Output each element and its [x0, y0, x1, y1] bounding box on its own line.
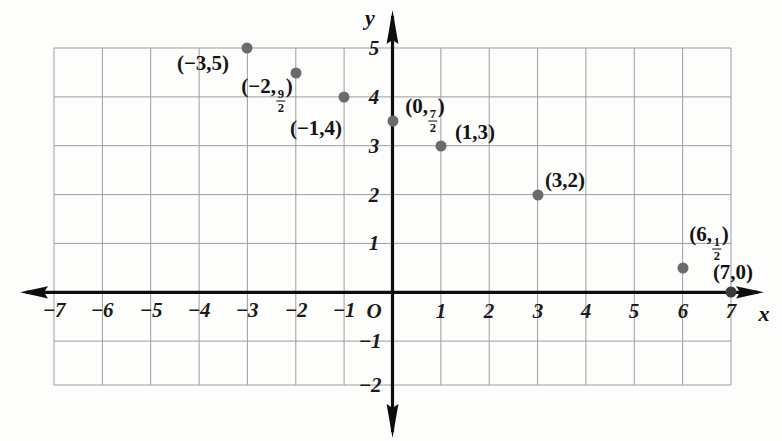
x-tick-label-neg6: −6: [90, 300, 113, 321]
fraction-9-over-2: 92: [276, 88, 285, 115]
x-tick-label-neg2: −2: [284, 300, 307, 321]
x-tick-label-1: 1: [436, 301, 447, 322]
y-axis-label: y: [365, 5, 375, 31]
point-label-neg1-4: (−1,4): [290, 118, 342, 139]
x-tick-label-6: 6: [678, 301, 689, 322]
point-label-head: (0,: [405, 94, 428, 118]
y-tick-label-neg1: −1: [358, 331, 381, 352]
x-tick-label-5: 5: [629, 301, 640, 322]
coordinate-plane-figure: −7 −6 −5 −4 −3 −2 −1 1 2 3 4 5 6 7 5 4 3…: [0, 0, 782, 441]
x-tick-label-2: 2: [484, 301, 495, 322]
data-point-1-3: [435, 140, 446, 151]
y-tick-label-2: 2: [369, 185, 380, 206]
point-label-head: (−2,: [241, 74, 276, 98]
fraction-1-over-2: 12: [712, 236, 721, 263]
x-tick-label-neg4: −4: [187, 300, 210, 321]
x-tick-label-neg1: −1: [332, 300, 355, 321]
point-label-neg3-5: (−3,5): [177, 53, 229, 74]
y-tick-label-neg2: −2: [358, 375, 381, 396]
data-point-6-1over2: [677, 262, 688, 273]
point-label-tail: ): [722, 222, 729, 246]
graph-canvas: [0, 0, 782, 441]
y-axis: [387, 10, 399, 438]
x-tick-label-7: 7: [726, 301, 737, 322]
data-point-neg1-4: [339, 91, 350, 102]
point-label-0-7over2: (0,72): [405, 96, 445, 135]
fraction-numerator: 1: [712, 236, 721, 250]
fraction-denominator: 2: [428, 122, 437, 135]
point-label-neg2-9over2: (−2,92): [241, 76, 293, 115]
data-point-3-2: [532, 189, 543, 200]
fraction-numerator: 9: [276, 88, 285, 102]
x-tick-label-3: 3: [533, 301, 544, 322]
x-tick-label-neg7: −7: [42, 300, 65, 321]
fraction-7-over-2: 72: [428, 108, 437, 135]
point-label-head: (6,: [689, 222, 712, 246]
y-tick-label-3: 3: [369, 136, 380, 157]
point-label-3-2: (3,2): [545, 170, 585, 191]
fraction-numerator: 7: [428, 108, 437, 122]
x-axis-label: x: [759, 301, 770, 327]
point-label-6-1over2: (6,12): [689, 224, 729, 263]
point-label-tail: ): [286, 74, 293, 98]
y-tick-label-5: 5: [369, 38, 380, 59]
x-tick-label-4: 4: [581, 301, 592, 322]
data-point-0-7over2: [387, 116, 398, 127]
data-point-neg3-5: [242, 43, 253, 54]
y-tick-label-1: 1: [369, 233, 380, 254]
data-point-7-0: [726, 287, 737, 298]
point-label-1-3: (1,3): [455, 122, 495, 143]
point-label-tail: ): [438, 94, 445, 118]
x-tick-label-neg5: −5: [139, 300, 162, 321]
fraction-denominator: 2: [276, 102, 285, 115]
point-label-7-0: (7,0): [713, 262, 753, 283]
y-tick-label-4: 4: [369, 87, 380, 108]
x-tick-label-neg3: −3: [235, 300, 258, 321]
origin-label: O: [366, 299, 381, 324]
